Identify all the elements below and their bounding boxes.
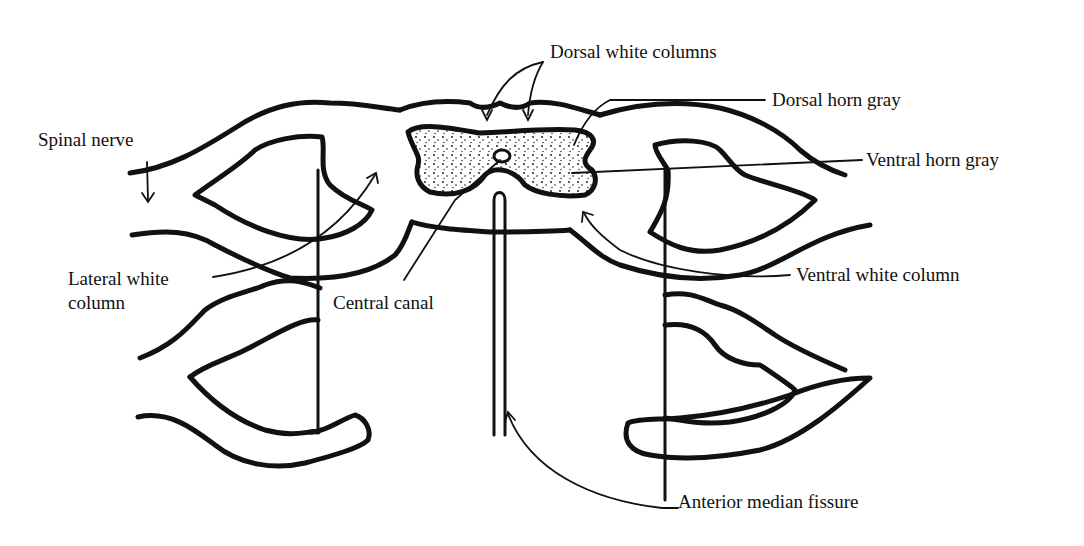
central-canal-shape: [494, 150, 510, 162]
anterior-median-fissure: [494, 193, 505, 436]
label-central-canal: Central canal: [333, 292, 434, 313]
diagram-svg: Dorsal white columns Dorsal horn gray Ve…: [0, 0, 1084, 546]
label-dorsal-horn-gray: Dorsal horn gray: [772, 89, 901, 110]
left-upper-nerve: [130, 102, 412, 466]
label-spinal-nerve: Spinal nerve: [38, 129, 134, 150]
right-upper-nerve: [570, 104, 870, 500]
label-lateral-white-column-line1: Lateral white: [68, 268, 169, 289]
label-anterior-median-fissure: Anterior median fissure: [678, 491, 858, 512]
label-ventral-horn-gray: Ventral horn gray: [866, 149, 999, 170]
spinal-cord-diagram: Dorsal white columns Dorsal horn gray Ve…: [0, 0, 1084, 546]
label-dorsal-white-columns: Dorsal white columns: [550, 41, 717, 62]
label-ventral-white-column: Ventral white column: [796, 264, 960, 285]
label-lateral-white-column-line2: column: [68, 292, 125, 313]
annotation-pointers: [142, 62, 862, 508]
